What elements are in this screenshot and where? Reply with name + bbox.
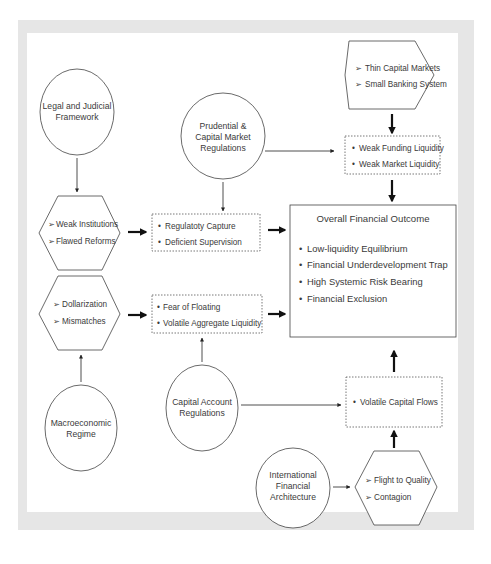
box-bullet: • bbox=[352, 144, 355, 153]
outcome-item: Financial Exclusion bbox=[307, 293, 387, 304]
node-legal-framework: Legal and Judicial Framework bbox=[40, 69, 114, 155]
hex-bullet: ➢ bbox=[53, 317, 60, 326]
node-dollarization: ➢ Dollarization ➢ Mismatches bbox=[39, 276, 120, 350]
node-capital-account-regulations: Capital Account Regulations bbox=[166, 365, 238, 451]
box-item: Weak Funding Liquidity bbox=[359, 144, 445, 153]
node-text: Capital Account bbox=[172, 397, 232, 407]
node-text: Capital Market bbox=[195, 132, 251, 142]
node-macroeconomic-regime: Macroeconomic Regime bbox=[45, 385, 117, 471]
outcome-bullet: • bbox=[299, 293, 302, 304]
outcome-item: Financial Underdevelopment Trap bbox=[307, 259, 448, 270]
box-item: Deficient Supervision bbox=[165, 238, 242, 247]
node-weak-liquidity: • Weak Funding Liquidity • Weak Market L… bbox=[345, 136, 445, 174]
hex-item: Thin Capital Markets bbox=[365, 64, 440, 73]
box-item: Volatile Aggregate Liquidity bbox=[163, 319, 262, 328]
hex-bullet: ➢ bbox=[48, 220, 55, 229]
hex-item: Contagion bbox=[374, 493, 412, 502]
node-text: Regulations bbox=[179, 408, 224, 418]
hex-bullet: ➢ bbox=[365, 493, 372, 502]
node-flight-to-quality: ➢ Flight to Quality ➢ Contagion bbox=[355, 451, 437, 525]
outcome-bullet: • bbox=[299, 243, 302, 254]
node-text: Regime bbox=[66, 429, 96, 439]
node-weak-institutions: ➢ Weak Institutions ➢ Flawed Reforms bbox=[39, 196, 120, 270]
node-text: Prudential & bbox=[200, 121, 247, 131]
box-bullet: • bbox=[353, 398, 356, 407]
node-text: International bbox=[269, 470, 316, 480]
box-item: Regulatoty Capture bbox=[165, 222, 236, 231]
node-fear-of-floating: • Fear of Floating • Volatile Aggregate … bbox=[152, 295, 262, 333]
node-text: Legal and Judicial bbox=[43, 101, 112, 111]
node-prudential-regulations: Prudential & Capital Market Regulations bbox=[181, 93, 265, 179]
hex-item: Mismatches bbox=[62, 317, 106, 326]
outcome-item: High Systemic Risk Bearing bbox=[307, 276, 423, 287]
node-text: Financial bbox=[276, 481, 310, 491]
outcome-bullet: • bbox=[299, 259, 302, 270]
box-bullet: • bbox=[352, 160, 355, 169]
hex-bullet: ➢ bbox=[53, 300, 60, 309]
node-text: Architecture bbox=[270, 492, 316, 502]
node-regulatory-capture: • Regulatoty Capture • Deficient Supervi… bbox=[152, 214, 260, 251]
box-item: Fear of Floating bbox=[163, 303, 221, 312]
hex-item: Dollarization bbox=[62, 300, 107, 309]
outcome-item: Low-liquidity Equilibrium bbox=[307, 243, 408, 254]
hex-item: Small Banking System bbox=[365, 80, 447, 89]
node-volatile-capital-flows: • Volatile Capital Flows bbox=[346, 377, 442, 427]
hex-bullet: ➢ bbox=[355, 64, 362, 73]
hex-bullet: ➢ bbox=[365, 476, 372, 485]
node-overall-outcome: Overall Financial Outcome • Low-liquidit… bbox=[290, 205, 456, 337]
hex-bullet: ➢ bbox=[48, 237, 55, 246]
hex-item: Weak Institutions bbox=[56, 220, 118, 229]
hex-item: Flawed Reforms bbox=[56, 237, 116, 246]
box-item: Weak Market Liquidity bbox=[359, 160, 440, 169]
outcome-title: Overall Financial Outcome bbox=[316, 213, 429, 224]
node-text: Macroeconomic bbox=[51, 418, 112, 428]
box-bullet: • bbox=[157, 319, 160, 328]
box-bullet: • bbox=[158, 238, 161, 247]
hex-item: Flight to Quality bbox=[374, 476, 432, 485]
box-bullet: • bbox=[157, 303, 160, 312]
hex-bullet: ➢ bbox=[355, 80, 362, 89]
box-item: Volatile Capital Flows bbox=[360, 398, 438, 407]
outcome-bullet: • bbox=[299, 276, 302, 287]
node-international-architecture: International Financial Architecture bbox=[256, 448, 330, 528]
box-bullet: • bbox=[158, 222, 161, 231]
flow-diagram: Legal and Judicial Framework Prudential … bbox=[0, 0, 491, 564]
node-text: Framework bbox=[56, 112, 100, 122]
node-thin-markets: ➢ Thin Capital Markets ➢ Small Banking S… bbox=[345, 41, 447, 109]
node-text: Regulations bbox=[200, 143, 245, 153]
